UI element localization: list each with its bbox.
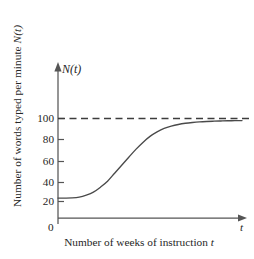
logistic-curve [58, 121, 242, 199]
x-axis-title-text: Number of weeks of instruction [64, 236, 211, 248]
y-tick-marks [58, 119, 64, 202]
x-axis-symbol-label: t [240, 221, 243, 233]
y-axis-line [54, 62, 61, 224]
plot-area [0, 0, 254, 259]
origin-label: 0 [48, 221, 54, 233]
y-axis-symbol-label: N(t) [62, 62, 81, 77]
x-axis-line [58, 215, 247, 222]
x-axis-title: Number of weeks of instruction t [34, 236, 244, 248]
x-axis-title-symbol: t [211, 236, 214, 248]
figure-panel: Number of words typed per minute N(t) 10… [0, 0, 254, 259]
